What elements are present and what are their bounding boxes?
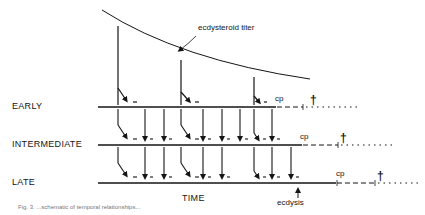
death-marker-intermediate: † — [340, 131, 347, 145]
x-axis-label: TIME — [182, 193, 205, 203]
death-marker-late: † — [377, 169, 384, 183]
row-label-late: LATE — [12, 177, 35, 187]
figure-caption: Fig. 3. ...schematic of temporal relatio… — [18, 204, 140, 210]
ecdysis-label: ecdysis — [277, 198, 304, 207]
intermediate-pulses — [118, 109, 280, 139]
row-label-early: EARLY — [12, 101, 42, 111]
row-label-intermediate: INTERMEDIATE — [12, 139, 82, 149]
cp-label-early: cp — [275, 94, 283, 103]
diagram-canvas — [0, 0, 425, 215]
early-pulses — [118, 26, 267, 105]
cp-label-late: cp — [336, 169, 344, 178]
cp-label-intermediate: cp — [300, 132, 308, 141]
curve-label-pointer — [180, 36, 196, 50]
death-marker-early: † — [310, 93, 317, 107]
late-pulses — [118, 147, 299, 177]
curve-label: ecdysteroid titer — [198, 23, 254, 32]
ecdysteroid-titer-curve — [102, 10, 310, 79]
